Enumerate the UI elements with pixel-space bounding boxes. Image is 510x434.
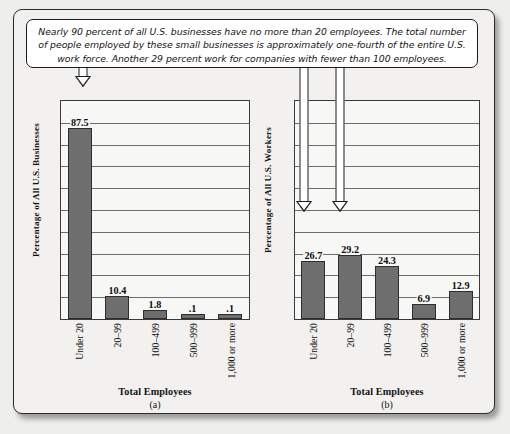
- bar-slot: 12.9: [443, 101, 478, 319]
- bar-value-label: 29.2: [340, 244, 360, 255]
- x-axis-categories-b: Under 20 20–99 100–499 500–999 1,000 or …: [294, 321, 480, 393]
- category-label: 500–999: [175, 321, 211, 393]
- callout-arrow-to-29-2: [331, 62, 349, 212]
- bar-20-99[interactable]: 29.2: [338, 255, 362, 319]
- category-label: 20–99: [99, 321, 135, 393]
- bar-value-label: 6.9: [416, 293, 431, 304]
- bar-slot: 24.3: [370, 101, 405, 319]
- category-label: 1,000 or more: [444, 321, 479, 393]
- bar-group-b: 26.7 29.2 24.3 6.9: [295, 101, 479, 319]
- category-label: 100–499: [369, 321, 404, 393]
- figure-frame: Nearly 90 percent of all U.S. businesses…: [13, 9, 495, 414]
- bar-1000-or-more[interactable]: 12.9: [449, 291, 473, 319]
- caption-callout-box: Nearly 90 percent of all U.S. businesses…: [26, 19, 478, 68]
- x-axis-title-b: Total Employees: [294, 386, 480, 397]
- x-axis-categories-a: Under 20 20–99 100–499 500–999 1,000 or …: [60, 321, 250, 393]
- bar-1000-or-more[interactable]: .1: [218, 314, 242, 319]
- bar-slot: .1: [212, 101, 248, 319]
- bar-500-999[interactable]: .1: [181, 314, 205, 319]
- bar-under-20[interactable]: 26.7: [301, 261, 325, 319]
- bar-value-label: 10.4: [107, 285, 127, 296]
- bar-slot: 6.9: [406, 101, 441, 319]
- bar-slot: .1: [175, 101, 211, 319]
- bar-slot: 1.8: [137, 101, 173, 319]
- caption-text: Nearly 90 percent of all U.S. businesses…: [36, 25, 468, 65]
- chart-panel-b: Percentage of All U.S. Workers 26.7: [260, 72, 484, 402]
- bar-under-20[interactable]: 87.5: [68, 128, 92, 319]
- category-label: Under 20: [295, 321, 330, 393]
- bar-value-label: 1.8: [148, 299, 163, 310]
- chart-panel-a: Percentage of All U.S. Businesses 87.5: [28, 72, 256, 402]
- bar-value-label: 24.3: [377, 255, 397, 266]
- y-axis-title-b: Percentage of All U.S. Workers: [260, 72, 276, 308]
- panel-tag-a: (a): [60, 399, 250, 410]
- category-label: 1,000 or more: [213, 321, 249, 393]
- panel-tag-b: (b): [294, 399, 480, 410]
- plot-area-a: 87.5 10.4 1.8 .1: [60, 100, 250, 320]
- bar-100-499[interactable]: 24.3: [375, 266, 399, 319]
- category-label: Under 20: [61, 321, 97, 393]
- bar-20-99[interactable]: 10.4: [105, 296, 129, 319]
- callout-arrow-to-26-7: [295, 62, 313, 212]
- bar-100-499[interactable]: 1.8: [143, 310, 167, 319]
- category-label: 100–499: [137, 321, 173, 393]
- bar-group-a: 87.5 10.4 1.8 .1: [61, 101, 249, 319]
- category-label: 500–999: [406, 321, 441, 393]
- bar-500-999[interactable]: 6.9: [412, 304, 436, 319]
- x-axis-title-a: Total Employees: [60, 386, 250, 397]
- plot-area-b: 26.7 29.2 24.3 6.9: [294, 100, 480, 320]
- y-axis-title-a: Percentage of All U.S. Businesses: [28, 72, 44, 308]
- bar-slot: 87.5: [62, 101, 98, 319]
- bar-value-label: .1: [225, 303, 235, 314]
- bar-value-label: .1: [188, 303, 198, 314]
- bar-value-label: 26.7: [303, 250, 323, 261]
- bar-slot: 10.4: [100, 101, 136, 319]
- category-label: 20–99: [332, 321, 367, 393]
- bar-value-label: 87.5: [70, 117, 90, 128]
- bar-value-label: 12.9: [451, 280, 471, 291]
